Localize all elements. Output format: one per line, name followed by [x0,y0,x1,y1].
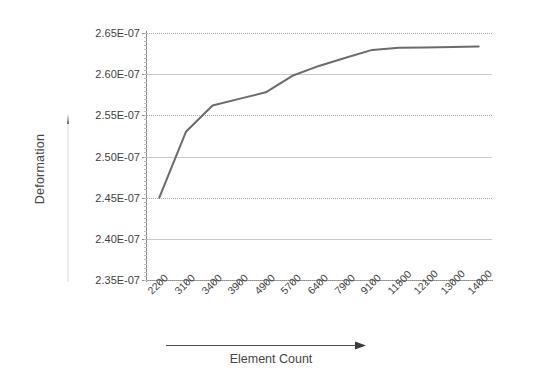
y-axis-up-arrow-icon [67,114,69,282]
y-tick-label: 2.65E-07 [78,27,140,39]
y-tick-label: 2.60E-07 [78,68,140,80]
y-tick-label: 2.40E-07 [78,233,140,245]
y-tick-label: 2.50E-07 [78,151,140,163]
y-axis-title: Deformation [33,104,47,234]
y-tick-label: 2.45E-07 [78,192,140,204]
chart-figure: Deformation 2.35E-072.40E-072.45E-072.50… [0,0,535,382]
plot-area [146,33,492,280]
y-tick-label: 2.55E-07 [78,109,140,121]
y-tick-label: 2.35E-07 [78,274,140,286]
data-series-line [146,33,492,280]
y-axis-tick-labels: 2.35E-072.40E-072.45E-072.50E-072.55E-07… [78,0,140,382]
y-axis-title-block: Deformation [20,86,82,282]
x-axis-title: Element Count [166,352,376,366]
x-axis-right-arrow-icon [166,341,366,350]
y-minor-tick [144,280,147,281]
